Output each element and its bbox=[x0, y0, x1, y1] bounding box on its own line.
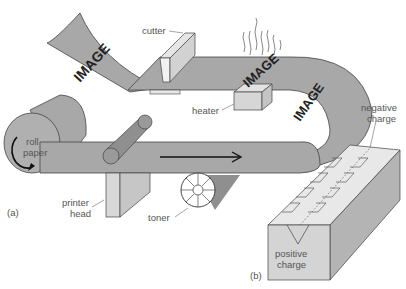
label-negative: negative bbox=[361, 102, 397, 113]
label-head: head bbox=[70, 208, 91, 219]
panel-label-b: (b) bbox=[250, 270, 262, 281]
printer-diagram: IMAGE IMAGE IMAGE bbox=[0, 0, 406, 289]
label-heater: heater bbox=[192, 105, 219, 116]
heater bbox=[234, 84, 272, 110]
label-positive: positive bbox=[275, 248, 307, 259]
label-toner: toner bbox=[148, 212, 170, 223]
label-roll: roll bbox=[26, 136, 39, 147]
heat-waves-icon bbox=[243, 18, 281, 55]
label-negative-charge: charge bbox=[367, 113, 396, 124]
label-paper: paper bbox=[23, 147, 47, 158]
label-cutter: cutter bbox=[142, 25, 166, 36]
label-printer: printer bbox=[62, 197, 89, 208]
panel-label-a: (a) bbox=[7, 207, 19, 218]
printer-head bbox=[106, 173, 150, 217]
toner-wheel bbox=[181, 173, 240, 210]
label-positive-charge: charge bbox=[277, 259, 306, 270]
